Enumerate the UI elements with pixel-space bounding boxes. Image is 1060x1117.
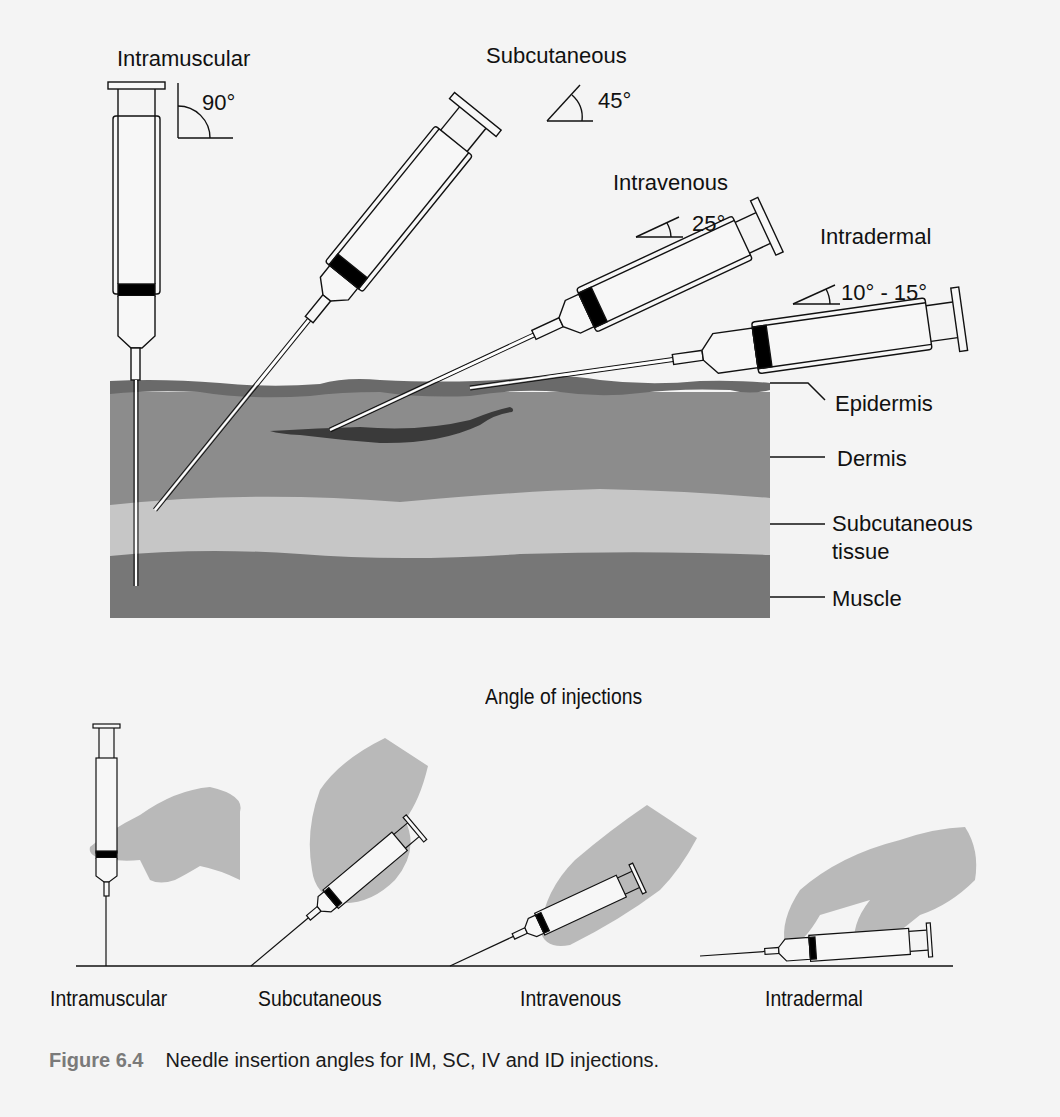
subcutaneous-layer xyxy=(110,488,770,558)
layer-label-subcutaneous: Subcutaneous xyxy=(832,513,973,535)
angle-label-45: 45° xyxy=(598,90,631,112)
skin-cross-section xyxy=(110,376,770,618)
layer-label-muscle: Muscle xyxy=(832,588,902,610)
muscle-layer xyxy=(110,549,770,618)
figure-number: Figure 6.4 xyxy=(49,1049,143,1071)
bottom-title: Angle of injections xyxy=(485,686,642,708)
route-label-intramuscular: Intramuscular xyxy=(117,48,250,70)
mini-syringe-intramuscular xyxy=(93,724,120,966)
layer-label-tissue: tissue xyxy=(832,541,889,563)
bottom-label-intravenous: Intravenous xyxy=(520,988,621,1010)
route-label-subcutaneous: Subcutaneous xyxy=(486,45,627,67)
angle-label-10-15: 10° - 15° xyxy=(841,282,927,304)
angle-10-15-icon xyxy=(793,285,840,304)
bottom-label-intramuscular: Intramuscular xyxy=(50,988,167,1010)
dermis-layer xyxy=(110,392,770,505)
caption-text: Needle insertion angles for IM, SC, IV a… xyxy=(165,1049,659,1071)
route-label-intradermal: Intradermal xyxy=(820,226,931,248)
angle-label-25: 25° xyxy=(692,213,725,235)
bottom-label-intradermal: Intradermal xyxy=(765,988,863,1010)
layer-leader-lines xyxy=(770,383,825,597)
layer-label-dermis: Dermis xyxy=(837,448,907,470)
figure-caption: Figure 6.4Needle insertion angles for IM… xyxy=(49,1050,659,1070)
bottom-label-subcutaneous: Subcutaneous xyxy=(258,988,382,1010)
route-label-intravenous: Intravenous xyxy=(613,172,728,194)
angle-label-90: 90° xyxy=(202,92,235,114)
injection-angle-diagram xyxy=(0,0,1060,1117)
angle-glyphs xyxy=(178,83,840,304)
angle-45-icon xyxy=(547,85,593,121)
mini-syringe-intravenous xyxy=(443,863,646,980)
angle-25-icon xyxy=(636,217,683,237)
layer-label-epidermis: Epidermis xyxy=(835,393,933,415)
